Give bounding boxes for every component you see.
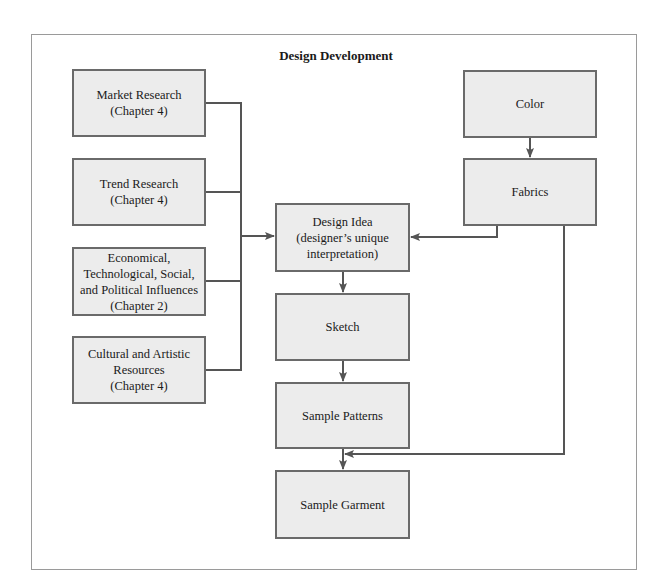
node-influences: Economical, Technological, Social, and P… <box>72 247 206 316</box>
node-trend-research: Trend Research (Chapter 4) <box>72 158 206 226</box>
node-fabrics: Fabrics <box>463 158 597 226</box>
node-design-idea: Design Idea (designer’s unique interpret… <box>275 203 410 272</box>
node-market-research: Market Research (Chapter 4) <box>72 69 206 137</box>
node-color: Color <box>463 70 597 138</box>
node-sample-garment: Sample Garment <box>275 470 410 539</box>
node-sketch: Sketch <box>275 293 410 361</box>
node-sample-patterns: Sample Patterns <box>275 382 410 449</box>
node-cultural-resources: Cultural and Artistic Resources (Chapter… <box>72 336 206 404</box>
